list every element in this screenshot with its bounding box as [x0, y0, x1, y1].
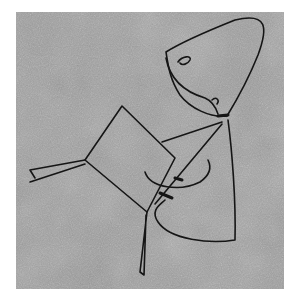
body-outline: [155, 120, 235, 241]
lap-curve: [145, 160, 210, 187]
leg: [140, 212, 147, 275]
hand: [175, 178, 182, 180]
ink-drawing: [16, 12, 284, 289]
arm: [162, 122, 222, 142]
eye-icon: [178, 57, 190, 65]
photograph: [16, 12, 284, 289]
head-outline: [166, 18, 264, 116]
left-limb: [30, 160, 85, 182]
neck: [218, 115, 228, 116]
staff: [155, 124, 222, 204]
